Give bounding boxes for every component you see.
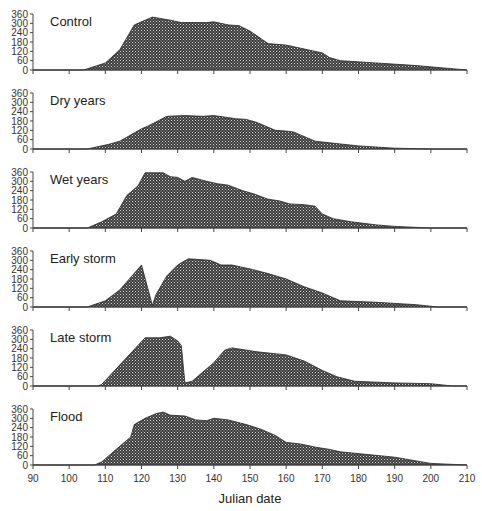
multi-panel-area-chart: 060120180240300360Control060120180240300… [0,0,482,511]
panel-flood: 0601201802403003609010011012013014015016… [11,404,475,485]
area-series [33,17,467,70]
y-tick-label: 360 [11,88,28,99]
panel-late-storm: 060120180240300360Late storm [11,325,467,392]
x-tick-label: 110 [97,473,113,484]
panel-title: Wet years [50,172,109,187]
y-tick-label: 360 [11,9,28,20]
x-tick-label: 120 [133,473,150,484]
x-tick-label: 100 [61,473,78,484]
area-series [33,412,467,465]
x-tick-label: 180 [350,473,367,484]
x-tick-label: 130 [169,473,186,484]
x-tick-label: 90 [27,473,39,484]
area-series [33,259,467,307]
y-tick-label: 360 [11,167,28,178]
x-tick-label: 140 [205,473,222,484]
x-tick-label: 190 [386,473,403,484]
panel-dry-years: 060120180240300360Dry years [11,88,467,155]
x-axis-label: Julian date [219,491,282,506]
panel-title: Flood [50,409,83,424]
x-tick-label: 160 [278,473,295,484]
x-tick-label: 170 [314,473,331,484]
area-series [33,116,467,149]
panel-control: 060120180240300360Control [11,9,467,76]
x-tick-label: 210 [459,473,476,484]
panel-wet-years: 060120180240300360Wet years [11,167,467,234]
x-tick-label: 150 [242,473,259,484]
y-tick-label: 360 [11,246,28,257]
x-tick-label: 200 [422,473,439,484]
panel-early-storm: 060120180240300360Early storm [11,246,467,313]
panel-title: Early storm [50,251,116,266]
panel-title: Dry years [50,93,106,108]
y-tick-label: 360 [11,404,28,415]
panel-title: Control [50,14,92,29]
y-tick-label: 360 [11,325,28,336]
panel-title: Late storm [50,330,111,345]
